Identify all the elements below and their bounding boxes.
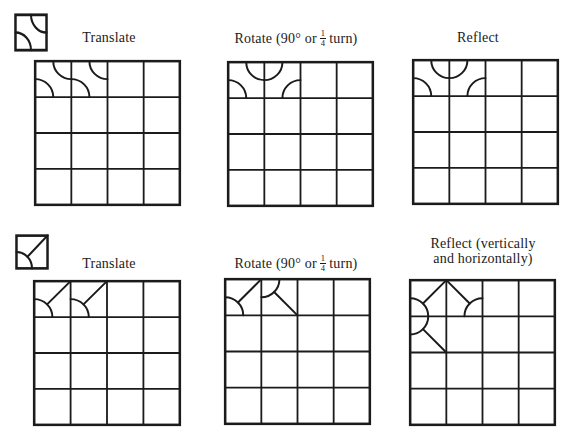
label-line-1: Reflect (vertically <box>398 236 568 251</box>
grid-translate-top <box>33 59 182 207</box>
fraction-denominator: 4 <box>320 39 326 48</box>
label-line-2: and horizontally) <box>398 251 568 266</box>
label-prefix: Rotate (90° or <box>235 31 317 46</box>
label-text: Reflect <box>457 30 499 45</box>
label-text: Translate <box>82 30 135 45</box>
label-reflect-top: Reflect <box>418 30 538 45</box>
label-prefix: Rotate (90° or <box>235 256 317 271</box>
source-tile-bottom <box>14 233 50 271</box>
grid-translate-bottom <box>32 279 182 427</box>
grid-reflect-bottom <box>408 278 557 427</box>
label-reflect-bottom: Reflect (vertically and horizontally) <box>398 236 568 266</box>
label-rotate-top: Rotate (90° or14turn) <box>216 29 376 48</box>
quarter-fraction: 14 <box>320 254 326 273</box>
grid-rotate-top <box>226 60 375 208</box>
label-translate-top: Translate <box>49 30 169 45</box>
label-rotate-bottom: Rotate (90° or14turn) <box>216 254 376 273</box>
grid-rotate-bottom <box>223 277 372 426</box>
transformations-worksheet: Translate Rotate (90° or14turn) Reflect … <box>0 0 569 447</box>
label-translate-bottom: Translate <box>49 256 169 271</box>
fraction-denominator: 4 <box>320 264 326 273</box>
label-suffix: turn) <box>329 256 357 271</box>
label-text: Translate <box>82 256 135 271</box>
quarter-fraction: 14 <box>320 29 326 48</box>
source-tile-top <box>13 12 49 53</box>
label-suffix: turn) <box>329 31 357 46</box>
grid-reflect-top <box>411 58 560 206</box>
